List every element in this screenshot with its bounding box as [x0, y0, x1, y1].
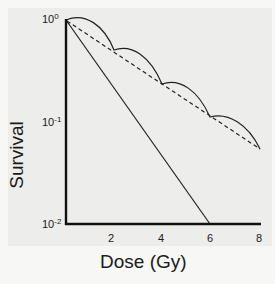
x-axis-label: Dose (Gy): [100, 251, 187, 273]
xtick-4: 4: [158, 232, 164, 244]
xtick-6: 6: [207, 232, 213, 244]
y-axis-label: Survival: [2, 100, 32, 210]
plot-area: [0, 0, 275, 284]
xtick-8: 8: [256, 232, 262, 244]
xtick-2: 2: [108, 232, 114, 244]
single-dose-line: [66, 20, 210, 224]
ytick-1e-1: 10-1: [42, 115, 61, 128]
effective-dashed-line: [67, 21, 260, 149]
survival-curve-figure: 100 10-1 10-2 2 4 6 8 Survival Dose (Gy): [0, 0, 275, 284]
ytick-1e0: 100: [42, 12, 59, 25]
ytick-1e-2: 10-2: [42, 217, 61, 230]
